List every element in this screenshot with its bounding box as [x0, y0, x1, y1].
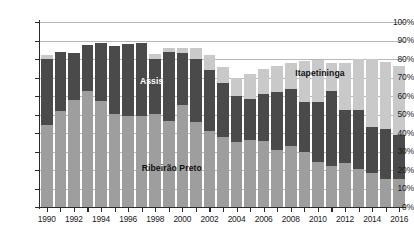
bar-column: [299, 22, 311, 207]
x-tick-label: 1996: [114, 214, 142, 224]
y-tick-mark: [35, 207, 39, 208]
bar-column: [366, 22, 378, 207]
bar-segment-assis: [68, 53, 80, 99]
y-tick-mark: [35, 133, 39, 134]
x-tick-mark: [101, 207, 102, 212]
bar-segment-ribeirao-preto: [109, 114, 121, 207]
bar-segment-assis: [109, 46, 121, 114]
x-tick-mark: [155, 207, 156, 212]
bar-segment-ribeirao-preto: [244, 140, 256, 207]
x-tick-label: 1998: [141, 214, 169, 224]
bar-segment-ribeirao-preto: [271, 150, 283, 207]
bar-column: [244, 22, 256, 207]
y-tick-mark: [35, 78, 39, 79]
bar-segment-itapetininga: [217, 67, 229, 83]
y-tick-label: 90%: [380, 36, 414, 44]
x-tick-mark: [60, 207, 61, 212]
x-tick-mark: [331, 207, 332, 212]
x-tick-label: 2006: [250, 214, 278, 224]
bar-segment-itapetininga: [271, 66, 283, 93]
x-tick-mark: [345, 207, 346, 212]
bar-segment-assis: [339, 110, 351, 163]
x-tick-label: 1994: [87, 214, 115, 224]
bar-column: [55, 22, 67, 207]
bar-column: [312, 22, 324, 207]
bar-segment-itapetininga: [258, 69, 270, 94]
y-tick-mark: [35, 96, 39, 97]
x-tick-mark: [277, 207, 278, 212]
x-tick-mark: [250, 207, 251, 212]
bar-segment-ribeirao-preto: [122, 116, 134, 207]
x-tick-label: 2010: [304, 214, 332, 224]
bar-segment-assis: [122, 44, 134, 116]
x-tick-mark: [264, 207, 265, 212]
bar-segment-itapetininga: [41, 55, 53, 59]
series-label-ribeirao-preto: Ribeirão Preto: [142, 163, 202, 173]
y-tick-mark: [35, 41, 39, 42]
bar-column: [353, 22, 365, 207]
bar-segment-assis: [231, 96, 243, 142]
x-tick-mark: [128, 207, 129, 212]
bar-column: [177, 22, 189, 207]
y-tick-label: 50%: [380, 110, 414, 118]
x-tick-mark: [318, 207, 319, 212]
x-tick-label: 2008: [277, 214, 305, 224]
plot-area: [40, 22, 406, 207]
x-tick-label: 2012: [331, 214, 359, 224]
bar-column: [217, 22, 229, 207]
x-tick-label: 2016: [385, 214, 413, 224]
bar-segment-assis: [299, 102, 311, 153]
series-label-assis: Assis: [140, 76, 163, 86]
bar-column: [231, 22, 243, 207]
bar-column: [95, 22, 107, 207]
y-tick-mark: [35, 170, 39, 171]
stacked-bar-chart: 0%10%20%30%40%50%60%70%80%90%100% 199019…: [0, 0, 414, 242]
bar-segment-ribeirao-preto: [149, 114, 161, 207]
bar-segment-assis: [353, 110, 365, 169]
y-tick-mark: [35, 22, 39, 23]
bar-segment-itapetininga: [149, 54, 161, 59]
x-tick-label: 1992: [60, 214, 88, 224]
x-tick-mark: [386, 207, 387, 212]
bar-segment-ribeirao-preto: [95, 101, 107, 207]
x-tick-mark: [372, 207, 373, 212]
x-tick-label: 2014: [358, 214, 386, 224]
x-tick-mark: [115, 207, 116, 212]
bar-segment-ribeirao-preto: [68, 100, 80, 207]
x-tick-mark: [359, 207, 360, 212]
bar-segment-ribeirao-preto: [326, 166, 338, 207]
bar-column: [190, 22, 202, 207]
bar-segment-itapetininga: [366, 59, 378, 127]
y-axis-line: [39, 20, 40, 209]
y-tick-label: 30%: [380, 147, 414, 155]
bar-segment-assis: [204, 70, 216, 131]
bar-segment-itapetininga: [231, 78, 243, 97]
bar-segment-ribeirao-preto: [366, 173, 378, 207]
bar-segment-assis: [163, 52, 175, 121]
bar-column: [285, 22, 297, 207]
y-tick-label: 40%: [380, 129, 414, 137]
bar-segment-assis: [190, 59, 202, 122]
bar-segment-ribeirao-preto: [312, 162, 324, 207]
x-tick-label: 2002: [195, 214, 223, 224]
x-tick-label: 2000: [168, 214, 196, 224]
y-tick-label: 100%: [380, 18, 414, 26]
bar-segment-assis: [366, 127, 378, 172]
x-tick-mark: [304, 207, 305, 212]
bar-segment-assis: [95, 43, 107, 100]
bar-segment-itapetininga: [190, 48, 202, 59]
bar-column: [122, 22, 134, 207]
bar-segment-assis: [82, 45, 94, 91]
bar-segment-ribeirao-preto: [82, 91, 94, 207]
bar-segment-assis: [149, 59, 161, 114]
x-tick-mark: [169, 207, 170, 212]
bar-column: [258, 22, 270, 207]
x-tick-mark: [74, 207, 75, 212]
x-tick-mark: [291, 207, 292, 212]
x-tick-label: 1990: [33, 214, 61, 224]
bar-segment-itapetininga: [177, 48, 189, 53]
series-label-itapetininga: Itapetininga: [295, 68, 344, 78]
bar-segment-ribeirao-preto: [299, 152, 311, 207]
x-tick-mark: [47, 207, 48, 212]
bar-segment-itapetininga: [312, 60, 324, 102]
